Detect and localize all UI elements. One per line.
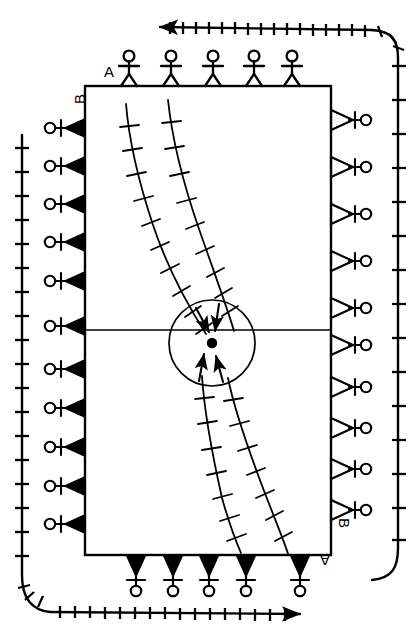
triangle-marker-right	[331, 298, 371, 318]
triangle-marker-right	[331, 157, 371, 177]
triangle-marker-right	[331, 377, 371, 397]
boundary-markers-top	[119, 51, 302, 86]
boundary-markers-bottom	[126, 556, 310, 596]
stick-figure-top	[282, 51, 302, 86]
triangle-stick-bottom	[236, 556, 256, 596]
triangle-marker-left	[45, 194, 85, 214]
triangle-marker-right	[331, 500, 371, 520]
diagram-vector-layer	[0, 0, 419, 639]
triangle-stick-bottom	[126, 556, 146, 596]
outer-ticks-corner-top-right	[378, 26, 404, 50]
triangle-marker-right	[331, 251, 371, 271]
stick-figure-top	[161, 51, 181, 86]
triangle-marker-right	[331, 335, 371, 355]
triangle-marker-left	[45, 437, 85, 457]
triangle-marker-left	[45, 476, 85, 496]
triangle-marker-left	[45, 118, 85, 138]
boundary-markers-left	[45, 118, 85, 534]
focal-point-dot	[207, 338, 217, 348]
triangle-marker-left	[45, 271, 85, 291]
central-block	[85, 86, 331, 555]
triangle-marker-left	[45, 156, 85, 176]
triangle-stick-bottom	[163, 556, 183, 596]
triangle-marker-left	[45, 316, 85, 336]
triangle-marker-right	[331, 204, 371, 224]
label-a-top: A	[104, 64, 114, 79]
triangle-marker-right	[331, 418, 371, 438]
triangle-marker-left	[45, 232, 85, 252]
label-b-right: B	[337, 518, 352, 528]
label-b-left: B	[72, 94, 87, 104]
triangle-marker-right	[331, 459, 371, 479]
triangle-stick-bottom	[290, 556, 310, 596]
triangle-marker-left	[45, 398, 85, 418]
stick-figure-top	[244, 51, 264, 86]
diagram-canvas: A B B A	[0, 0, 419, 639]
triangle-marker-left	[45, 359, 85, 379]
stick-figure-top	[119, 51, 139, 86]
stick-figure-top	[203, 51, 223, 86]
triangle-marker-left	[45, 514, 85, 534]
triangle-stick-bottom	[199, 556, 219, 596]
label-a-bottom: A	[320, 553, 330, 568]
boundary-markers-right	[331, 110, 371, 520]
triangle-marker-right	[331, 110, 371, 130]
